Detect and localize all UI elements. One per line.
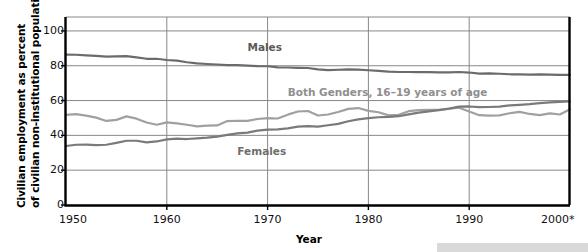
- x-tick-label: 1980: [338, 214, 398, 225]
- y-tick-label: 0: [36, 199, 64, 210]
- y-axis-title: Civilian employment as percent of civili…: [0, 0, 34, 215]
- y-tick-label: 80: [36, 60, 64, 71]
- series-label-females: Females: [237, 146, 286, 157]
- chart-container: Civilian employment as percent of civili…: [0, 0, 588, 252]
- x-tick-label: 1960: [137, 214, 197, 225]
- y-tick-label: 20: [36, 164, 64, 175]
- series-line-males: [66, 55, 570, 75]
- y-tick-label: 40: [36, 129, 64, 140]
- y-axis-title-line-1: Civilian employment as percent: [15, 24, 27, 208]
- footer-bar: [437, 243, 588, 252]
- series-line-females: [66, 101, 570, 146]
- y-tick-label: 60: [36, 95, 64, 106]
- y-tick-label: 100: [36, 25, 64, 36]
- x-tick-label: 1950: [59, 214, 87, 225]
- x-tick-label: 2000*: [541, 214, 575, 225]
- series-label-both-genders: Both Genders, 16–19 years of age: [288, 87, 488, 98]
- series-line-both-genders: [66, 108, 570, 127]
- axis-lines: [66, 17, 571, 206]
- series-label-males: Males: [247, 42, 282, 53]
- x-tick-label: 1970: [238, 214, 298, 225]
- x-axis-title-text: Year: [296, 233, 322, 245]
- x-tick-label: 1990: [439, 214, 499, 225]
